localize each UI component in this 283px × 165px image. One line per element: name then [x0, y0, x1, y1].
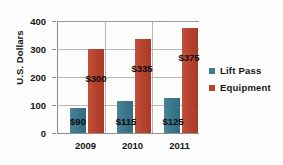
legend-swatch-lift-pass-icon: [209, 68, 215, 74]
tickmark-0: [52, 133, 56, 134]
bar-chart: U.S. Dollars 400 300 200 100 0: [0, 0, 283, 165]
x-tick-label-2011: 2011: [156, 141, 203, 151]
data-label-lift-pass-2011: $125: [154, 117, 192, 127]
legend-item-equipment[interactable]: Equipment: [209, 79, 283, 96]
tickmark-400: [52, 21, 56, 22]
gridline-400: [58, 21, 199, 22]
legend-swatch-equipment-icon: [209, 85, 215, 91]
x-axis-tick-labels: 2009 2010 2011: [57, 141, 198, 157]
y-tick-label-200: 200: [20, 73, 46, 83]
data-label-equipment-2009: $300: [75, 74, 117, 84]
legend-label-equipment: Equipment: [220, 82, 271, 93]
y-tick-label-0: 0: [20, 129, 46, 139]
x-tick-label-2010: 2010: [109, 141, 156, 151]
plot-area: $90 $300 $115 $335 $125 $375: [57, 21, 199, 134]
y-tick-label-300: 300: [20, 45, 46, 55]
tickmark-200: [52, 77, 56, 78]
y-tick-label-400: 400: [20, 17, 46, 27]
data-label-equipment-2010: $335: [121, 64, 163, 74]
y-tick-label-100: 100: [20, 101, 46, 111]
data-label-lift-pass-2009: $90: [62, 117, 94, 127]
x-tick-label-2009: 2009: [62, 141, 109, 151]
y-axis-tick-labels: 400 300 200 100 0: [20, 0, 46, 165]
legend-label-lift-pass: Lift Pass: [220, 65, 261, 76]
tickmark-300: [52, 49, 56, 50]
group-divider-2: [152, 21, 153, 133]
tickmark-100: [52, 105, 56, 106]
chart-legend: Lift Pass Equipment: [209, 62, 283, 96]
data-label-lift-pass-2010: $115: [107, 117, 145, 127]
gridline-300: [58, 49, 199, 50]
legend-item-lift-pass[interactable]: Lift Pass: [209, 62, 283, 79]
data-label-equipment-2011: $375: [168, 53, 210, 63]
